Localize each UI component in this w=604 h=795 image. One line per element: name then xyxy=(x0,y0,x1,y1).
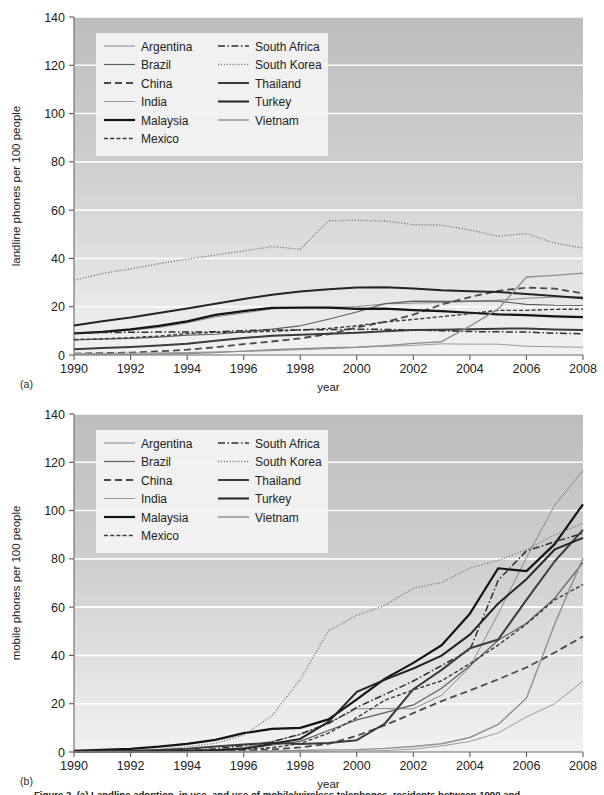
x-tick-label: 2008 xyxy=(569,759,597,773)
legend: ArgentinaBrazilChinaIndiaMalaysiaMexicoS… xyxy=(96,430,328,553)
legend-label-south-korea: South Korea xyxy=(255,455,322,469)
legend-label-argentina: Argentina xyxy=(141,40,193,54)
y-tick-label: 60 xyxy=(51,204,65,218)
y-tick-label: 0 xyxy=(58,349,65,363)
y-tick-label: 100 xyxy=(44,504,65,518)
panel-label-b: (b) xyxy=(20,775,33,787)
y-tick-label: 120 xyxy=(44,59,65,73)
x-axis-title: year xyxy=(317,381,340,393)
x-tick-label: 2006 xyxy=(513,362,541,376)
y-tick-label: 20 xyxy=(51,697,65,711)
panel-label-a: (a) xyxy=(20,378,33,390)
y-tick-label: 0 xyxy=(58,746,65,760)
x-tick-label: 2004 xyxy=(456,362,484,376)
x-tick-label: 1994 xyxy=(173,759,201,773)
chart-panel-mobile: 0204060801001201401990199219941996199820… xyxy=(0,397,604,792)
x-tick-label: 1990 xyxy=(60,759,88,773)
legend-label-turkey: Turkey xyxy=(255,95,291,109)
y-tick-label: 20 xyxy=(51,300,65,314)
y-tick-label: 120 xyxy=(44,456,65,470)
figure-container: 0204060801001201401990199219941996199820… xyxy=(0,0,604,795)
legend-label-india: India xyxy=(141,492,167,506)
legend-label-thailand: Thailand xyxy=(255,474,301,488)
x-tick-label: 1992 xyxy=(117,759,145,773)
legend-label-china: China xyxy=(141,474,173,488)
legend-label-vietnam: Vietnam xyxy=(255,511,299,525)
legend-label-south-korea: South Korea xyxy=(255,58,322,72)
legend-label-thailand: Thailand xyxy=(255,77,301,91)
y-tick-label: 40 xyxy=(51,649,65,663)
legend: ArgentinaBrazilChinaIndiaMalaysiaMexicoS… xyxy=(96,33,328,156)
x-tick-label: 1996 xyxy=(230,759,258,773)
x-tick-label: 1992 xyxy=(117,362,145,376)
y-axis-title: mobile phones per 100 people xyxy=(10,506,22,661)
x-tick-label: 2002 xyxy=(399,362,427,376)
legend-label-brazil: Brazil xyxy=(141,58,171,72)
y-tick-label: 140 xyxy=(44,11,65,25)
legend-label-malaysia: Malaysia xyxy=(141,511,189,525)
x-tick-label: 1994 xyxy=(173,362,201,376)
x-tick-label: 1998 xyxy=(286,362,314,376)
chart-panel-landline: 0204060801001201401990199219941996199820… xyxy=(0,0,604,395)
y-tick-label: 80 xyxy=(51,155,65,169)
legend-label-south-africa: South Africa xyxy=(255,437,320,451)
x-tick-label: 2002 xyxy=(399,759,427,773)
legend-label-south-africa: South Africa xyxy=(255,40,320,54)
legend-label-vietnam: Vietnam xyxy=(255,114,299,128)
x-tick-label: 2000 xyxy=(343,759,371,773)
x-tick-label: 2000 xyxy=(343,362,371,376)
landline-chart-svg: 0204060801001201401990199219941996199820… xyxy=(0,0,604,395)
x-tick-label: 2004 xyxy=(456,759,484,773)
x-tick-label: 1998 xyxy=(286,759,314,773)
y-tick-label: 140 xyxy=(44,408,65,422)
y-axis-title: landline phones per 100 people xyxy=(10,106,22,267)
x-tick-label: 2006 xyxy=(513,759,541,773)
x-tick-label: 2008 xyxy=(569,362,597,376)
x-tick-label: 1990 xyxy=(60,362,88,376)
y-tick-label: 60 xyxy=(51,601,65,615)
legend-label-mexico: Mexico xyxy=(141,132,179,146)
legend-label-china: China xyxy=(141,77,173,91)
legend-label-turkey: Turkey xyxy=(255,492,291,506)
legend-label-india: India xyxy=(141,95,167,109)
legend-label-mexico: Mexico xyxy=(141,529,179,543)
figure-caption: Figure 2. (a) Landline adoption, in use,… xyxy=(34,789,594,795)
y-tick-label: 40 xyxy=(51,252,65,266)
y-tick-label: 80 xyxy=(51,552,65,566)
x-tick-label: 1996 xyxy=(230,362,258,376)
y-tick-label: 100 xyxy=(44,107,65,121)
legend-label-brazil: Brazil xyxy=(141,455,171,469)
mobile-chart-svg: 0204060801001201401990199219941996199820… xyxy=(0,397,604,792)
legend-label-malaysia: Malaysia xyxy=(141,114,189,128)
legend-label-argentina: Argentina xyxy=(141,437,193,451)
